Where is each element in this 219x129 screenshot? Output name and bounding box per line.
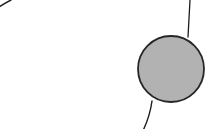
geometric-figure <box>0 0 219 129</box>
gray-disc <box>138 36 204 102</box>
drawing-canvas <box>0 0 219 129</box>
